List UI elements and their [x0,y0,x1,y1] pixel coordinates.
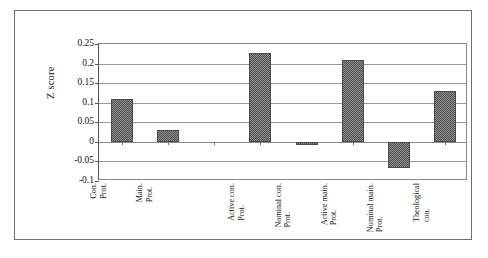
gridline [99,142,466,143]
y-tick-label: -0.05 [74,157,94,167]
gridline [99,161,466,162]
y-tick-mark [95,64,99,65]
y-tick-mark [95,122,99,123]
y-tick-mark [95,44,99,45]
x-tick-label: Theologicalcon. [413,183,475,222]
y-tick-mark [95,142,99,143]
category-tick [260,142,261,145]
x-tick-label-line: Prot. [100,183,109,199]
y-tick-label: 0.05 [77,118,94,128]
gridline [99,83,466,84]
x-axis-tick-labels: Con.Prot.Main.Prot.Active con.Prot.Nomin… [98,183,467,245]
category-tick [122,142,123,145]
x-tick-label-line: Prot. [146,183,155,202]
gridline [99,64,466,65]
y-tick-mark [95,181,99,182]
bar [249,53,271,142]
x-tick-label-line: Nominal con. [275,183,284,228]
plot-area: 0.250.20.150.10.050-0.05-0.1 [98,43,467,180]
category-tick [353,142,354,145]
y-tick-mark [95,103,99,104]
x-tick-label-line: Prot. [330,183,339,225]
gridline [99,103,466,104]
x-tick-label-line: Prot. [284,183,293,228]
category-tick [168,142,169,145]
bar [342,60,364,141]
x-tick-label-line: Prot. [238,183,247,221]
bar [388,142,410,169]
category-tick [214,142,215,145]
y-tick-mark [95,161,99,162]
y-tick-label: 0.25 [77,39,94,49]
x-tick-label-line: Active con. [228,183,237,221]
x-tick-label-line: Con. [90,183,99,199]
x-tick-label-line: Main. [136,183,145,202]
y-tick-label: 0.1 [82,98,94,108]
category-tick [445,142,446,145]
bar [434,91,456,142]
x-tick-label: Main.Prot. [136,183,198,202]
y-axis-title: Z score [45,66,56,99]
x-tick-label-line: Theological [413,183,422,222]
bar [111,99,133,142]
x-tick-label-line: Prot. [376,183,385,232]
x-tick-label-line: Active main. [321,183,330,225]
bar [296,142,318,145]
y-tick-label: 0.15 [77,78,94,88]
y-tick-label: 0 [89,137,94,147]
x-tick-label-line: con. [423,183,432,222]
y-tick-label: 0.2 [82,59,94,69]
figure-frame: Z score 0.250.20.150.10.050-0.05-0.1 Con… [14,10,472,240]
gridline [99,122,466,123]
y-tick-mark [95,83,99,84]
bar [157,130,179,142]
